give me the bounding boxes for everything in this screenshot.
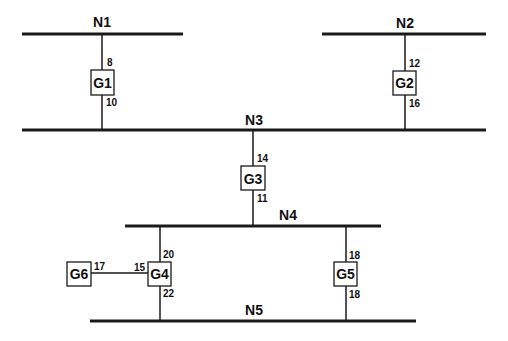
device-g4-label: G4 [150, 266, 169, 282]
g4-top-value: 20 [163, 249, 175, 260]
device-g5-label: G5 [336, 266, 355, 282]
bus-label-n1: N1 [93, 14, 111, 30]
device-g1-label: G1 [93, 75, 112, 91]
g3-top-value: 14 [257, 153, 269, 164]
g3-bottom-value: 11 [257, 193, 268, 204]
device-g2-label: G2 [395, 75, 414, 91]
g4-left-value: 15 [134, 262, 146, 273]
device-g3-label: G3 [244, 171, 263, 187]
g2-top-value: 12 [409, 58, 421, 69]
g6-right-value: 17 [94, 261, 106, 272]
device-g6-label: G6 [70, 266, 89, 282]
g5-top-value: 18 [349, 250, 361, 261]
g5-bottom-value: 18 [349, 289, 361, 300]
bus-label-n4: N4 [279, 207, 297, 223]
bus-label-n5: N5 [245, 302, 263, 318]
bus-label-n3: N3 [245, 112, 263, 128]
g4-bottom-value: 22 [163, 288, 175, 299]
g1-top-value: 8 [107, 57, 113, 68]
bus-label-n2: N2 [396, 15, 414, 31]
g2-bottom-value: 16 [409, 98, 421, 109]
g1-bottom-value: 10 [106, 97, 118, 108]
network-diagram: N1 N2 N3 N4 N5 G1 8 10 G2 12 16 G3 14 11… [0, 0, 508, 341]
